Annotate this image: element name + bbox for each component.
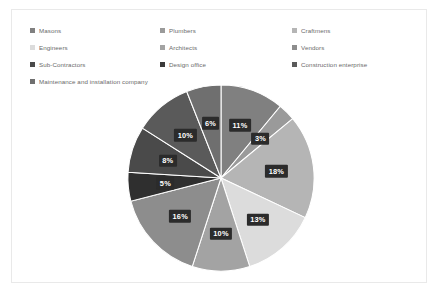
pie-slice-data-label: 3% bbox=[252, 132, 270, 145]
pie-chart-svg bbox=[126, 83, 316, 273]
pie-slice-data-label: 16% bbox=[169, 210, 191, 223]
pie-slice-data-label: 10% bbox=[174, 129, 196, 142]
pie-slice-data-label: 18% bbox=[265, 165, 287, 178]
pie-slice-data-label: 5% bbox=[156, 177, 174, 190]
chart-panel: MasonsPlumbersCraftmensEngineersArchitec… bbox=[11, 9, 427, 283]
pie-chart-area: 11%3%18%13%10%16%5%8%10%6% bbox=[12, 10, 428, 284]
pie-slice-data-label: 11% bbox=[229, 119, 251, 132]
pie-slice-data-label: 10% bbox=[210, 228, 232, 241]
pie-slice-data-label: 8% bbox=[159, 154, 177, 167]
pie-slice-data-label: 13% bbox=[247, 214, 269, 227]
pie-slice-data-label: 6% bbox=[202, 117, 220, 130]
